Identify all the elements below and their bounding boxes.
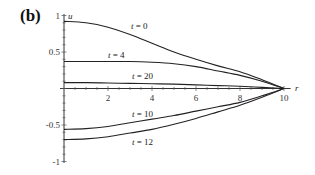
line-chart: 24681010.5-0.5-1urt = 0t = 4t = 20t = 10… xyxy=(0,0,315,175)
y-tick-label: 0.5 xyxy=(49,47,61,57)
y-tick-label: -0.5 xyxy=(46,120,61,130)
curve-label: t = 12 xyxy=(132,137,153,147)
curve-label: t = 0 xyxy=(131,21,148,31)
y-tick-label: 1 xyxy=(56,11,61,21)
x-tick-label: 8 xyxy=(238,93,243,103)
y-axis-label: u xyxy=(68,11,73,21)
curve-t10 xyxy=(64,89,284,130)
x-tick-label: 2 xyxy=(106,93,111,103)
x-tick-label: 4 xyxy=(150,93,155,103)
curve-t12 xyxy=(64,89,284,140)
y-tick-label: -1 xyxy=(53,157,61,167)
curve-label: t = 10 xyxy=(132,109,154,119)
x-axis-label: r xyxy=(295,83,299,93)
x-tick-label: 10 xyxy=(280,93,290,103)
curve-label: t = 4 xyxy=(108,50,125,60)
x-tick-label: 6 xyxy=(194,93,199,103)
curve-label: t = 20 xyxy=(132,71,154,81)
